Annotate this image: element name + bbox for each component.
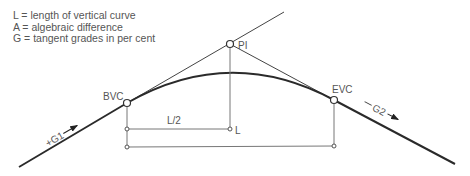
length-label: L <box>235 125 241 136</box>
dot-length-left <box>125 145 129 149</box>
evc-point-icon <box>331 97 338 104</box>
pi-label: PI <box>238 40 247 51</box>
dot-length-right <box>332 144 336 148</box>
half-length-label: L/2 <box>167 115 181 126</box>
pi-point-icon <box>227 41 234 48</box>
grade-g2-dash <box>365 102 372 106</box>
grade-g2-annotation: G2 <box>362 97 401 125</box>
tangent-g2-lower <box>334 100 455 164</box>
bvc-point-icon <box>124 100 131 107</box>
vertical-curve-diagram: PI BVC EVC L/2 L +G1 G2 <box>0 0 470 176</box>
tangent-g1-lower <box>19 103 127 167</box>
evc-label: EVC <box>332 84 353 95</box>
dot-half-right <box>228 127 232 131</box>
grade-g2-label: G2 <box>371 102 388 118</box>
tangent-g1-upper <box>127 12 284 103</box>
grade-g2-arrow-icon <box>388 114 399 120</box>
dot-half-left <box>125 127 129 131</box>
bvc-label: BVC <box>103 91 124 102</box>
length-line <box>127 146 334 147</box>
grade-g1-arrow-icon <box>63 126 77 134</box>
